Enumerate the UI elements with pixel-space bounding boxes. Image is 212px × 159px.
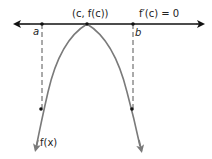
tangent-label: f′(c) = 0: [139, 8, 179, 19]
point-b-label: b: [135, 27, 141, 38]
point-a-label: a: [33, 26, 39, 37]
curve-f-x: [36, 24, 140, 148]
point-f-a: [39, 107, 43, 111]
vertex-label: (c, f(c)): [72, 8, 109, 19]
point-f-b: [130, 107, 134, 111]
point-a: [40, 22, 44, 26]
rolle-theorem-diagram: (c, f(c)) f′(c) = 0 a b f(x): [0, 0, 212, 159]
curve-label: f(x): [40, 137, 57, 148]
point-c: [85, 22, 89, 26]
point-b: [131, 22, 135, 26]
